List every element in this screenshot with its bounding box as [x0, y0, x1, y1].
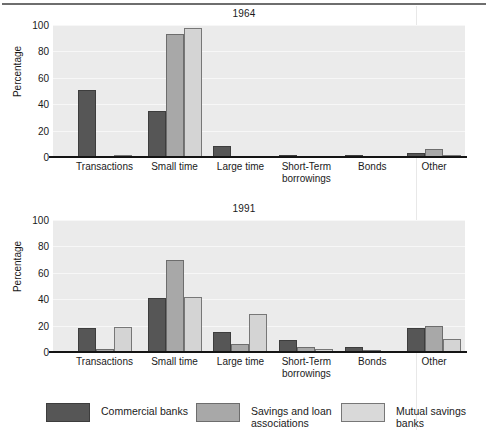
- y-axis-ticks: 100 80 60 40 20 0: [17, 220, 49, 352]
- bar: [114, 327, 132, 352]
- bar-group: [145, 220, 205, 352]
- bar: [184, 28, 202, 157]
- bar: [425, 326, 443, 352]
- bar-group: [75, 25, 135, 157]
- bar-group: [404, 220, 464, 352]
- bar-group: [342, 220, 402, 352]
- bar-group: [210, 220, 270, 352]
- bar: [148, 298, 166, 352]
- y-tick: 0: [21, 152, 49, 163]
- legend-item-label: Savings and loan associations: [251, 402, 332, 429]
- bar: [78, 328, 96, 352]
- x-axis-label: Other: [392, 161, 476, 173]
- x-axis-label: Other: [392, 356, 476, 368]
- bar: [78, 90, 96, 157]
- legend-item-commercial-banks: Commercial banks: [46, 402, 188, 422]
- bar-groups: [53, 220, 465, 352]
- x-axis-line: [49, 156, 467, 158]
- y-tick: 100: [21, 20, 49, 31]
- chart-title: 1991: [0, 203, 488, 214]
- chart-title: 1964: [0, 8, 488, 19]
- x-axis-labels: TransactionsSmall timeLarge timeShort-Te…: [53, 161, 465, 191]
- bar-group: [342, 25, 402, 157]
- bar-group: [75, 220, 135, 352]
- chart-page: 1964 Percentage 100 80 60 40 20 0 Transa…: [0, 0, 488, 438]
- x-axis-line: [49, 351, 467, 353]
- y-tick: 80: [21, 241, 49, 252]
- y-tick: 100: [21, 215, 49, 226]
- y-tick: 0: [21, 347, 49, 358]
- top-divider-rule: [2, 3, 486, 5]
- y-tick: 40: [21, 99, 49, 110]
- legend-swatch-icon: [341, 403, 385, 422]
- bar-group: [404, 25, 464, 157]
- bar: [407, 328, 425, 352]
- bar: [213, 332, 231, 352]
- bar: [184, 297, 202, 352]
- legend-swatch-icon: [46, 403, 90, 422]
- y-axis-ticks: 100 80 60 40 20 0: [17, 25, 49, 157]
- legend-item-label: Commercial banks: [101, 402, 188, 417]
- y-tick: 20: [21, 125, 49, 136]
- bar-group: [276, 25, 336, 157]
- bar-group: [145, 25, 205, 157]
- bar-group: [210, 25, 270, 157]
- chart-legend: Commercial banks Savings and loan associ…: [0, 402, 488, 436]
- bar: [166, 34, 184, 157]
- bar-group: [276, 220, 336, 352]
- legend-item-savings-and-loan: Savings and loan associations: [196, 402, 332, 429]
- bar: [249, 314, 267, 352]
- x-axis-labels: TransactionsSmall timeLarge timeShort-Te…: [53, 356, 465, 386]
- y-tick: 20: [21, 320, 49, 331]
- legend-swatch-icon: [196, 403, 240, 422]
- y-tick: 80: [21, 46, 49, 57]
- bar: [166, 260, 184, 352]
- legend-item-label: Mutual savings banks: [396, 402, 488, 429]
- bar-groups: [53, 25, 465, 157]
- y-tick: 60: [21, 72, 49, 83]
- bar: [148, 111, 166, 157]
- y-tick: 40: [21, 294, 49, 305]
- y-tick: 60: [21, 267, 49, 278]
- legend-item-mutual-savings-banks: Mutual savings banks: [341, 402, 488, 429]
